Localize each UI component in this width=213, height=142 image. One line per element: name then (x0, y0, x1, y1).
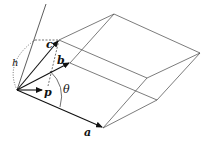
label-theta: θ (63, 83, 70, 96)
label-p: p (44, 86, 52, 99)
label-a: a (84, 126, 91, 139)
parallelepiped-edges (59, 14, 200, 128)
label-b: b (57, 54, 65, 67)
label-h: h (12, 57, 18, 68)
diagram-svg: a b c p h θ (0, 0, 213, 142)
parallelepiped-diagram: a b c p h θ (0, 0, 213, 142)
label-c: c (46, 38, 53, 51)
vector-a-arrow (17, 90, 102, 127)
theta-arc (50, 71, 62, 107)
